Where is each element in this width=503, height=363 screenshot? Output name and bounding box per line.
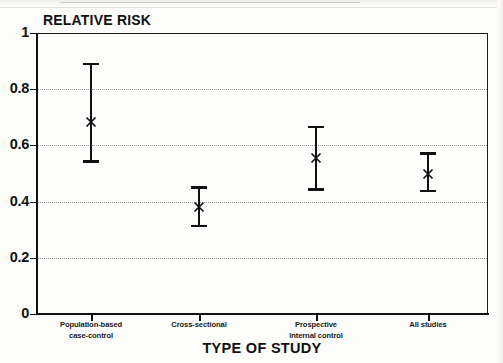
point-marker-x-icon [85,116,97,128]
y-axis-title: RELATIVE RISK [43,12,151,28]
x-axis-label-line: Prospective [289,320,343,331]
gridline-0-4 [38,202,487,204]
x-axis-label-line: Population-based [60,320,122,331]
x-axis-label-1: Cross-sectional [171,320,226,331]
error-bar-lower-cap [83,160,99,163]
error-bar-lower-cap [420,190,436,193]
plot-area-frame [36,33,488,314]
error-bar-upper-cap [83,63,99,66]
y-tick-0-6 [30,145,37,146]
y-tick-1 [30,33,37,34]
error-bar-lower-cap [308,188,324,191]
x-axis-label-line: All studies [409,320,446,331]
point-marker-x-icon [422,168,434,180]
y-tick-label-0: 0 [0,305,29,321]
y-tick-0 [30,314,37,315]
error-bar-upper-cap [308,126,324,129]
x-axis-label-0: Population-basedcase-control [60,320,122,341]
scan-artifact-line [60,2,360,3]
y-tick-label-0-8: 0.8 [0,80,29,96]
gridline-0-2 [38,258,487,260]
y-tick-label-0-4: 0.4 [0,193,29,209]
x-axis-label-3: All studies [409,320,446,331]
y-tick-label-1: 1 [0,24,29,40]
y-tick-0-8 [30,89,37,90]
scan-artifact-right-edge [497,0,503,363]
gridline-0-6 [38,145,487,147]
point-marker-x-icon [310,152,322,164]
error-bar-lower-cap [191,225,207,228]
gridline-0-8 [38,89,487,91]
x-axis-title: TYPE OF STUDY [36,340,488,356]
x-axis-label-line: Cross-sectional [171,320,226,331]
x-axis-line [36,313,489,315]
y-tick-0-2 [30,258,37,259]
error-bar-upper-cap [420,152,436,155]
point-marker-x-icon [193,201,205,213]
y-tick-label-0-2: 0.2 [0,249,29,265]
y-tick-label-0-6: 0.6 [0,136,29,152]
x-axis-label-2: Prospectiveinternal control [289,320,343,341]
chart-page: RELATIVE RISK 00.20.40.60.81 Population-… [0,0,503,363]
error-bar-whisker [90,63,92,163]
y-tick-0-4 [30,202,37,203]
y-axis-line [36,33,38,315]
error-bar-upper-cap [191,186,207,189]
